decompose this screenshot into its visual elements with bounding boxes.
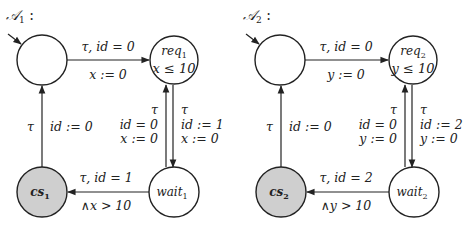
edge-cs-to-init-update: id := 0 (289, 119, 332, 134)
state-cs[interactable]: cs1 (17, 167, 67, 217)
state-wait[interactable]: wait1 (149, 167, 199, 217)
edge-wait-to-req-action: τ (151, 102, 159, 117)
edge-init-to-req-update: x := 0 (89, 67, 127, 82)
edge-req-to-wait-update2: y := 0 (419, 131, 458, 146)
edge-cs-to-init-action: τ (266, 119, 274, 134)
edge-req-to-wait-update1: id := 1 (181, 117, 224, 132)
initial-arrow (246, 34, 259, 44)
edge-wait-to-req-action: τ (390, 102, 398, 117)
edge-cs-to-init-update: id := 0 (50, 119, 93, 134)
automaton-title: 𝒜1 : (6, 7, 34, 25)
edge-req-to-wait-action: τ (420, 102, 428, 117)
state-init[interactable] (17, 35, 67, 85)
state-wait[interactable]: wait2 (389, 167, 439, 217)
edge-cs-to-init-action: τ (27, 119, 35, 134)
edge-req-to-wait-update2: x := 0 (181, 131, 219, 146)
edge-wait-to-cs-guard2: ∧y > 10 (321, 198, 372, 213)
edge-req-to-wait-update1: id := 2 (420, 117, 463, 132)
state-req[interactable]: req1 x ≤ 10 (150, 36, 198, 84)
state-req-invariant: y ≤ 10 (390, 61, 434, 76)
edge-req-to-wait-action: τ (181, 102, 189, 117)
edge-wait-to-req-guard: id = 0 (120, 117, 158, 132)
state-init[interactable] (255, 35, 305, 85)
state-cs[interactable]: cs2 (256, 167, 306, 217)
automaton-1: 𝒜1 : req1 x ≤ 10 wait1 cs1 τ, id = 0 x :… (6, 7, 224, 217)
automaton-2: 𝒜2 : req2 y ≤ 10 wait2 cs2 τ, id = 0 y :… (243, 7, 463, 217)
edge-init-to-req-guard: τ, id = 0 (319, 39, 372, 54)
state-req[interactable]: req2 y ≤ 10 (389, 36, 437, 84)
edge-init-to-req-update: y := 0 (326, 67, 365, 82)
state-req-invariant: x ≤ 10 (152, 61, 195, 76)
automaton-title: 𝒜2 : (243, 7, 271, 25)
edge-wait-to-req-guard: id = 0 (359, 117, 397, 132)
edge-wait-to-cs-guard2: ∧x > 10 (81, 198, 132, 213)
diagram-canvas: 𝒜1 : req1 x ≤ 10 wait1 cs1 τ, id = 0 x :… (0, 0, 472, 231)
edge-wait-to-cs-guard: τ, id = 1 (79, 170, 132, 185)
edge-init-to-req-guard: τ, id = 0 (81, 39, 134, 54)
edge-wait-to-req-update: x := 0 (120, 131, 158, 146)
edge-wait-to-req-update: y := 0 (358, 131, 397, 146)
edge-wait-to-cs-guard: τ, id = 2 (319, 170, 372, 185)
initial-arrow (8, 34, 21, 44)
